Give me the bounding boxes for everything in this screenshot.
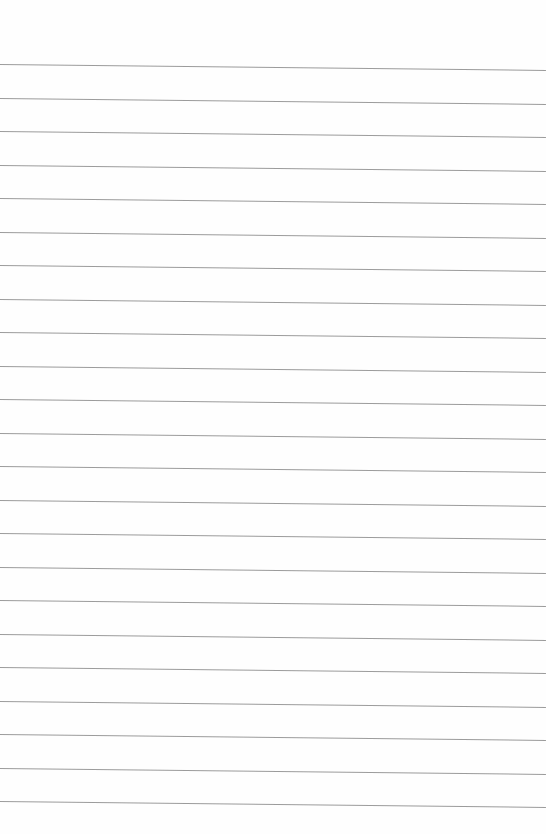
ruled-line [0, 198, 546, 205]
ruled-line [0, 98, 546, 105]
ruled-line [0, 768, 546, 775]
ruled-line [0, 500, 546, 507]
ruled-line [0, 232, 546, 239]
ruled-line [0, 801, 546, 808]
ruled-line [0, 634, 546, 641]
ruled-line [0, 667, 546, 674]
ruled-line [0, 433, 546, 440]
ruled-line [0, 533, 546, 540]
ruled-line [0, 332, 546, 339]
ruled-line [0, 567, 546, 574]
ruled-line [0, 299, 546, 306]
ruled-line [0, 734, 546, 741]
ruled-line [0, 131, 546, 138]
lined-paper-page [0, 0, 546, 834]
ruled-line [0, 466, 546, 473]
ruled-line [0, 64, 546, 71]
ruled-line [0, 701, 546, 708]
ruled-line [0, 165, 546, 172]
ruled-line [0, 265, 546, 272]
ruled-line [0, 366, 546, 373]
ruled-line [0, 600, 546, 607]
ruled-line [0, 399, 546, 406]
